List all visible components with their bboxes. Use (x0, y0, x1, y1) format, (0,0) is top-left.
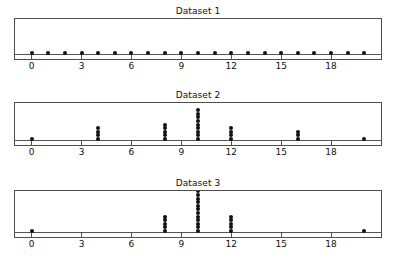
x-axis-tick-label: 18 (325, 148, 336, 157)
data-point (196, 130, 200, 134)
plot-area-dataset-1 (14, 19, 382, 60)
data-point (229, 126, 233, 130)
data-point (196, 215, 200, 219)
x-axis-tick (131, 55, 132, 59)
panel-title-strip-1: Dataset 1 (14, 5, 382, 19)
dot-plot-figure: Dataset 1 0369121518 Dataset 2 036912151… (0, 0, 400, 267)
panel-dataset-3: Dataset 3 (14, 177, 382, 238)
data-point (213, 51, 217, 55)
x-axis-labels-dataset-2: 0369121518 (14, 148, 382, 162)
panel-title-label: Dataset 1 (176, 7, 221, 16)
x-axis-tick (31, 55, 32, 59)
data-point (30, 51, 34, 55)
x-axis-tick-label: 12 (226, 148, 237, 157)
data-point (346, 51, 350, 55)
x-axis-tick (81, 233, 82, 237)
data-point (163, 222, 167, 226)
data-point (80, 51, 84, 55)
x-axis-tick-label: 3 (79, 62, 85, 71)
x-axis-tick (331, 55, 332, 59)
x-axis-tick-label: 12 (226, 240, 237, 249)
data-point (246, 51, 250, 55)
x-axis-tick (131, 141, 132, 145)
data-point (30, 229, 34, 233)
data-point (30, 137, 34, 141)
data-point (113, 51, 117, 55)
data-point (163, 218, 167, 222)
panel-dataset-1: Dataset 1 (14, 5, 382, 60)
data-point (163, 123, 167, 127)
data-point (196, 211, 200, 215)
data-point (229, 133, 233, 137)
x-axis-tick-label: 9 (178, 62, 184, 71)
data-point (229, 218, 233, 222)
x-axis-tick (31, 233, 32, 237)
x-axis-tick (331, 233, 332, 237)
panel-title-label: Dataset 2 (176, 91, 221, 100)
x-axis-tick-label: 3 (79, 148, 85, 157)
x-axis-tick-label: 0 (29, 62, 35, 71)
data-point (196, 112, 200, 116)
data-point (196, 229, 200, 233)
x-axis-tick (331, 141, 332, 145)
x-axis-labels-dataset-3: 0369121518 (14, 240, 382, 254)
x-axis-tick (231, 141, 232, 145)
x-axis-tick-label: 18 (325, 62, 336, 71)
panel-title-strip-2: Dataset 2 (14, 89, 382, 103)
x-axis-tick (81, 141, 82, 145)
x-axis-tick (281, 55, 282, 59)
data-point (296, 130, 300, 134)
x-axis-tick-label: 6 (129, 240, 135, 249)
data-point (96, 130, 100, 134)
data-point (163, 51, 167, 55)
data-point (296, 137, 300, 141)
data-point (196, 193, 200, 197)
data-point (163, 215, 167, 219)
data-point (196, 123, 200, 127)
x-axis-tick (181, 233, 182, 237)
x-axis-tick-label: 9 (178, 148, 184, 157)
data-point (96, 126, 100, 130)
x-axis-tick (131, 233, 132, 237)
x-axis-tick (181, 141, 182, 145)
data-point (163, 130, 167, 134)
x-axis-tick-label: 18 (325, 240, 336, 249)
data-point (163, 137, 167, 141)
x-axis-tick (81, 55, 82, 59)
plot-area-dataset-2 (14, 103, 382, 146)
x-axis-tick-label: 3 (79, 240, 85, 249)
data-point (263, 51, 267, 55)
data-point (229, 215, 233, 219)
data-point (196, 119, 200, 123)
x-axis-tick (231, 55, 232, 59)
x-axis-tick-label: 6 (129, 62, 135, 71)
x-axis-tick-label: 15 (275, 148, 286, 157)
data-point (196, 204, 200, 208)
x-axis-tick-label: 0 (29, 240, 35, 249)
data-point (196, 51, 200, 55)
x-axis-tick (231, 233, 232, 237)
x-axis-tick (181, 55, 182, 59)
data-point (163, 229, 167, 233)
data-point (196, 137, 200, 141)
x-axis-tick (31, 141, 32, 145)
panel-title-strip-3: Dataset 3 (14, 177, 382, 191)
x-axis-tick-label: 12 (226, 62, 237, 71)
x-axis-tick-label: 6 (129, 148, 135, 157)
panel-title-label: Dataset 3 (176, 179, 221, 188)
data-point (163, 126, 167, 130)
x-axis-tick (281, 141, 282, 145)
x-axis-tick (281, 233, 282, 237)
panel-dataset-2: Dataset 2 (14, 89, 382, 146)
plot-area-dataset-3 (14, 191, 382, 238)
data-point (296, 51, 300, 55)
x-axis-tick-label: 0 (29, 148, 35, 157)
data-point (63, 51, 67, 55)
data-point (196, 222, 200, 226)
x-axis-tick-label: 15 (275, 240, 286, 249)
data-point (229, 225, 233, 229)
x-axis-tick-label: 15 (275, 62, 286, 71)
data-point (196, 197, 200, 201)
x-axis-tick-label: 9 (178, 240, 184, 249)
x-axis-labels-dataset-1: 0369121518 (14, 62, 382, 76)
